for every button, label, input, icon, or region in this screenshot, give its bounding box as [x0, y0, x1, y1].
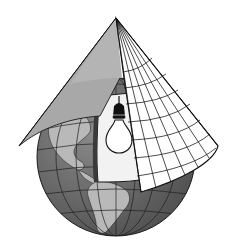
cone-shaded-upper: [70, 18, 122, 84]
conic-projection-illustration: [0, 0, 234, 242]
illustration-svg: [0, 0, 234, 242]
bulb-collar: [113, 115, 126, 119]
